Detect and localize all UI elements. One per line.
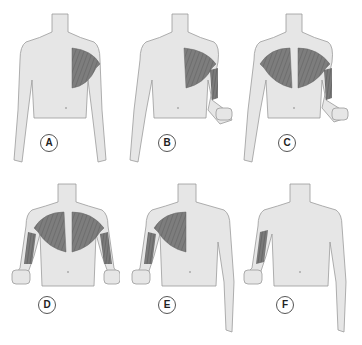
panel-label-c: C: [278, 134, 296, 152]
panel-label-e: E: [158, 296, 176, 314]
fist-left: [104, 270, 120, 284]
torso-illustration-c: [240, 0, 362, 172]
fist: [132, 270, 150, 284]
torso-illustration-d: [0, 172, 120, 344]
fist: [216, 108, 232, 120]
panel-label-a: A: [40, 134, 58, 152]
panel-e: E: [120, 172, 240, 344]
panel-d: D: [0, 172, 120, 344]
panel-label-d: D: [38, 296, 56, 314]
fist: [332, 108, 348, 120]
torso-illustration-e: [120, 172, 240, 344]
panel-b: B: [120, 0, 240, 172]
panel-label-b: B: [158, 134, 176, 152]
panel-c: C: [240, 0, 360, 172]
panel-a: A: [0, 0, 120, 172]
fist-right: [12, 270, 30, 284]
panel-label-f: F: [276, 296, 294, 314]
panel-f: F: [240, 172, 360, 344]
torso-illustration-b: [120, 0, 240, 172]
torso-illustration-a: [0, 0, 120, 172]
torso-illustration-f: [240, 172, 362, 344]
fist: [244, 270, 262, 284]
